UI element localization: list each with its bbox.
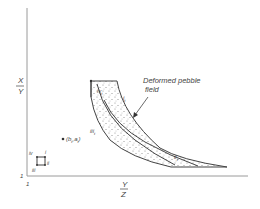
y-label-denominator: Y	[18, 87, 24, 96]
corner-ii: ii	[47, 160, 50, 166]
annotation-line-2: field	[145, 85, 160, 94]
field-region	[91, 81, 227, 167]
y-label-numerator: X	[17, 76, 24, 85]
annotation: Deformed pebble field	[133, 76, 201, 118]
corner-iii: iii	[32, 167, 36, 173]
y-axis-label: X Y	[16, 76, 24, 96]
point-dot	[62, 138, 65, 141]
undeformed-square: iv i ii iii	[29, 149, 50, 173]
label-i-t: it	[123, 95, 126, 103]
point-bt-at: (bt,at)	[62, 136, 81, 144]
origin-x-tick: 1	[26, 181, 29, 187]
square	[37, 157, 45, 165]
field-corner-dot	[90, 80, 92, 82]
origin-y-tick: 1	[20, 173, 23, 179]
annotation-line-1: Deformed pebble	[143, 76, 201, 85]
corner-i: i	[45, 149, 47, 155]
annotation-arrow	[135, 97, 148, 115]
x-label-numerator: Y	[122, 180, 128, 189]
deformed-pebble-diagram: ivt it iiit iit Deformed pebble field (b…	[0, 0, 260, 209]
corner-iv: iv	[29, 150, 33, 156]
arrowhead-icon	[133, 112, 138, 118]
point-label: (bt,at)	[66, 136, 81, 144]
label-iii-t: iiit	[90, 128, 96, 136]
x-label-denominator: Z	[120, 190, 127, 199]
x-axis-label: Y Z	[120, 180, 128, 199]
